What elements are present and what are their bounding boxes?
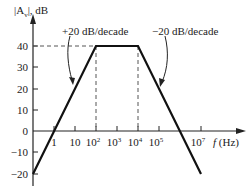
svg-text:−10: −10 xyxy=(11,146,29,158)
svg-text:40: 40 xyxy=(17,40,29,52)
annotation-plus-20db: +20 dB/decade xyxy=(62,25,128,37)
arrow-head-icon xyxy=(159,78,165,87)
y-ticks xyxy=(33,46,38,174)
svg-text:10: 10 xyxy=(17,104,29,116)
svg-text:−20: −20 xyxy=(11,168,29,180)
svg-text:0: 0 xyxy=(23,125,29,137)
annotation-arrow-up xyxy=(68,36,72,80)
annotation-arrow-down xyxy=(162,36,167,82)
bode-plot: |Av|, dB 40 30 20 10 0 −10 −20 1 10 102 … xyxy=(0,0,251,189)
svg-text:10: 10 xyxy=(70,136,82,148)
y-tick-labels: 40 30 20 10 0 −10 −20 xyxy=(11,40,29,180)
svg-text:1: 1 xyxy=(51,136,57,148)
svg-text:107: 107 xyxy=(191,136,206,148)
x-axis-label: f (Hz) xyxy=(213,136,239,149)
x-axis-arrow-icon xyxy=(236,128,246,134)
svg-text:30: 30 xyxy=(17,61,29,73)
y-axis-label: |Av|, dB xyxy=(14,4,48,19)
svg-text:20: 20 xyxy=(17,83,29,95)
reference-lines xyxy=(33,46,138,131)
svg-text:105: 105 xyxy=(149,136,164,148)
annotation-minus-20db: −20 dB/decade xyxy=(152,25,218,37)
bode-asymptote-line xyxy=(33,46,201,174)
svg-text:103: 103 xyxy=(107,136,122,148)
arrow-head-icon xyxy=(69,77,75,85)
svg-text:104: 104 xyxy=(128,136,143,148)
svg-text:102: 102 xyxy=(86,136,101,148)
